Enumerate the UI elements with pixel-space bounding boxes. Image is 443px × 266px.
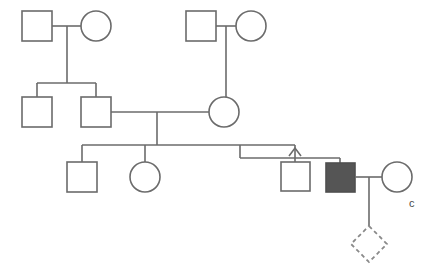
individual-I4-female-circle: [236, 11, 266, 41]
individual-III3-male-square-proband: [281, 162, 310, 191]
individual-II1-male-square: [22, 97, 52, 127]
individual-I3-male-square: [186, 11, 216, 41]
individual-III5-female-circle: [382, 162, 412, 192]
pedigree-canvas: c: [0, 0, 443, 266]
individual-II2-male-square: [81, 97, 111, 127]
individual-III1-male-square: [67, 162, 97, 192]
individual-III4-male-square-affected: [326, 163, 355, 192]
pedigree-chart: c: [0, 0, 443, 266]
individual-I2-female-circle: [81, 11, 111, 41]
annotation-c-label: c: [409, 197, 415, 209]
individual-I1-male-square: [22, 11, 52, 41]
individual-IV1-diamond-pregnancy: [351, 226, 387, 262]
individual-II3-female-circle: [209, 97, 239, 127]
individual-III2-female-circle: [130, 162, 160, 192]
